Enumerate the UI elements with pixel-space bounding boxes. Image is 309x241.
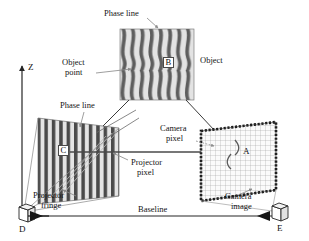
label-projector-fringe-line2: fringe	[41, 201, 61, 211]
label-point-c: C	[58, 145, 69, 156]
label-phase-line-top: Phase line	[104, 9, 139, 19]
object-surface	[120, 29, 194, 100]
label-camera-pixel-line2: pixel	[166, 134, 183, 144]
label-point-b: B	[163, 57, 174, 68]
label-axis-z: Z	[28, 62, 34, 72]
label-phase-line-left: Phase line	[60, 101, 95, 111]
label-object-point-line2: point	[65, 68, 82, 78]
camera-icon	[257, 203, 288, 221]
figure-canvas: Phase line Object point Object Phase lin…	[0, 0, 309, 241]
label-camera-image-line2: image	[231, 202, 252, 212]
camera-image-plane	[201, 122, 276, 201]
label-object: Object	[200, 56, 223, 66]
label-point-a: A	[243, 146, 250, 156]
label-baseline: Baseline	[138, 205, 167, 215]
label-point-d: D	[19, 224, 26, 234]
label-point-e: E	[277, 223, 283, 233]
label-projector-pixel-line2: pixel	[137, 168, 154, 178]
